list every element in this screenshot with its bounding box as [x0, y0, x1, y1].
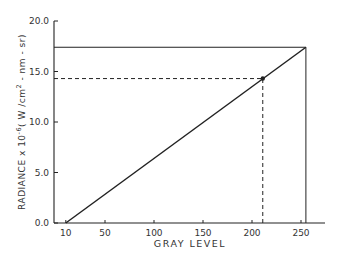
calibration-line [66, 47, 306, 223]
x-tick-label: 150 [194, 228, 211, 238]
y-tick-label: 5.0 [35, 168, 50, 178]
x-axis-title: GRAY LEVEL [154, 238, 226, 249]
x-tick-label: 50 [99, 228, 111, 238]
x-tick-label: 100 [145, 228, 162, 238]
y-tick-label: 15.0 [29, 67, 49, 77]
y-axis-title: RADIANCE x 10-6( W /cm2 - nm - sr) [15, 34, 27, 210]
y-tick-label: 10.0 [29, 117, 49, 127]
x-axis: 1050100150200250 [54, 220, 325, 238]
calibration-chart: 1050100150200250 0.05.010.015.020.0 GRAY… [0, 0, 338, 264]
x-tick-label: 10 [60, 228, 72, 238]
x-tick-label: 200 [243, 228, 260, 238]
y-tick-label: 20.0 [29, 16, 49, 26]
y-axis: 0.05.010.015.020.0 [29, 16, 58, 228]
plot-area [54, 47, 306, 223]
y-tick-label: 0.0 [35, 218, 50, 228]
x-tick-label: 250 [292, 228, 309, 238]
